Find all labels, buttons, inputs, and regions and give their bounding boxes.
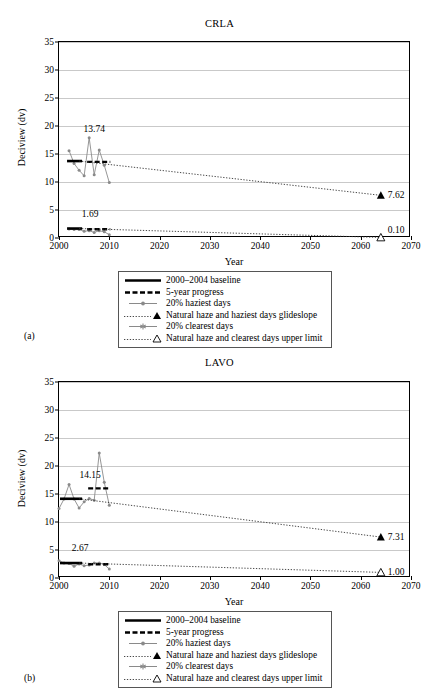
legend-key-dotted-filled-triangle-icon [123,310,163,321]
x-axis-tick-label: 2070 [402,241,421,251]
panel-label-b: (b) [24,673,35,683]
legend-row: 20% haziest days [123,298,326,310]
data-point-marker [93,499,96,502]
data-point-marker [78,507,81,510]
y-axis-tick-label: 15 [45,149,55,159]
data-point-marker [58,559,61,562]
figure-panel-b: LAVO Deciview (dv) 051015202530352000201… [0,340,439,691]
x-axis-tick-label: 2030 [200,581,219,591]
data-value-annotation: 13.74 [84,124,105,134]
series-layer [59,382,411,578]
x-axis-tick-mark [411,236,412,240]
x-axis-tick-label: 2010 [100,241,119,251]
y-axis-tick-label: 25 [45,433,55,443]
data-point-marker [108,181,111,184]
legend-key-line-star-icon [123,661,163,672]
legend-label: 20% clearest days [166,661,233,672]
data-value-annotation: 14.15 [79,470,100,480]
data-value-annotation: 1.00 [388,567,405,577]
legend-lavo: 2000–2004 baseline5-year progress20% haz… [118,611,332,688]
x-axis-tick-label: 2040 [251,581,270,591]
x-axis-title-crla: Year [58,256,410,267]
legend-key-line-dot-icon [123,298,163,309]
legend-key-dashed-icon [123,627,163,638]
legend-key-dotted-filled-triangle-icon [123,650,163,661]
y-axis-tick-label: 15 [45,489,55,499]
x-axis-tick-label: 2070 [402,581,421,591]
legend-row: Natural haze and clearest days upper lim… [123,673,326,685]
data-value-annotation: 7.62 [388,190,405,200]
data-point-marker [98,149,101,152]
data-point-marker [108,568,111,571]
x-axis-tick-label: 2000 [50,581,69,591]
data-point-marker [88,136,91,139]
data-point-marker [68,483,71,486]
y-axis-tick-label: 5 [49,545,54,555]
legend-crla: 2000–2004 baseline5-year progress20% haz… [118,271,332,348]
y-axis-tick-label: 10 [45,517,55,527]
data-point-marker [93,231,96,234]
glideslope-line [79,563,381,572]
y-axis-title-lavo: Deciview (dv) [16,424,27,534]
legend-key-line-star-icon [123,321,163,332]
legend-row: 20% haziest days [123,638,326,650]
legend-label: Natural haze and clearest days upper lim… [166,673,322,684]
legend-label: 2000–2004 baseline [166,615,241,626]
legend-key-dotted-open-triangle-icon [123,673,163,684]
legend-row: Natural haze and haziest days glideslope [123,310,326,322]
data-value-annotation: 7.31 [388,532,405,542]
legend-row: 20% clearest days [123,321,326,333]
legend-label: 20% haziest days [166,298,231,309]
legend-label: 20% haziest days [166,638,231,649]
legend-key-solid-icon [123,615,163,626]
data-point-marker [73,565,76,568]
chart-title-crla: CRLA [0,18,439,29]
data-point-marker [108,504,111,507]
glideslope-line [79,161,381,195]
legend-key-line-dot-icon [123,638,163,649]
y-axis-tick-label: 10 [45,177,55,187]
y-axis-tick-label: 20 [45,461,55,471]
glideslope-line [79,229,381,238]
legend-key-solid-icon [123,275,163,286]
legend-key-dashed-icon [123,287,163,298]
x-axis-tick-label: 2030 [200,241,219,251]
x-axis-tick-label: 2020 [150,581,169,591]
legend-label: Natural haze and haziest days glideslope [166,650,317,661]
data-point-marker [93,173,96,176]
glideslope-line [79,499,381,537]
chart-title-lavo: LAVO [0,357,439,368]
y-axis-tick-label: 20 [45,121,55,131]
legend-label: 5-year progress [166,627,224,638]
data-point-marker [73,162,76,165]
endpoint-filled-triangle-icon [377,533,385,540]
data-point-marker [83,564,86,567]
data-point-marker [83,230,86,233]
x-axis-tick-label: 2040 [251,241,270,251]
legend-row: 2000–2004 baseline [123,615,326,627]
y-axis-title-crla: Deciview (dv) [16,83,27,193]
legend-label: 5-year progress [166,287,224,298]
data-point-marker [83,174,86,177]
series-layer [59,42,411,238]
legend-label: 2000–2004 baseline [166,275,241,286]
x-axis-tick-label: 2010 [100,581,119,591]
data-point-marker [98,452,101,455]
legend-row: 2000–2004 baseline [123,275,326,287]
data-point-marker [103,481,106,484]
x-axis-tick-label: 2020 [150,241,169,251]
x-axis-tick-label: 2050 [301,581,320,591]
endpoint-filled-triangle-icon [377,191,385,198]
legend-row: 5-year progress [123,287,326,299]
y-axis-tick-label: 35 [45,377,55,387]
data-point-marker [68,149,71,152]
x-axis-tick-label: 2060 [351,241,370,251]
data-point-marker [83,500,86,503]
plot-area-lavo: 0510152025303520002010202020302040205020… [58,381,410,577]
series-line [59,453,109,508]
y-axis-tick-label: 35 [45,37,55,47]
x-axis-tick-label: 2050 [301,241,320,251]
figure-panel-a: CRLA Deciview (dv) 051015202530352000201… [0,0,439,348]
x-axis-title-lavo: Year [58,596,410,607]
data-point-marker [103,230,106,233]
